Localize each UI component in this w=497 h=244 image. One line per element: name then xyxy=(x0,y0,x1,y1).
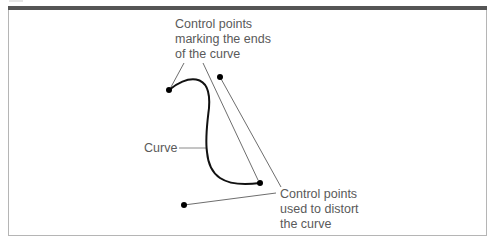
label-line: used to distort xyxy=(280,202,359,217)
end-control-point-finish xyxy=(257,180,263,186)
leader-line-distort-point-2 xyxy=(184,193,276,205)
distort-control-point-1 xyxy=(217,74,223,80)
label-line: Control points xyxy=(280,187,359,202)
label-line: the curve xyxy=(280,217,359,232)
leader-line-end-point xyxy=(203,63,258,180)
distort-control-point-2 xyxy=(181,202,187,208)
end-control-point-start xyxy=(166,87,172,93)
label-line: marking the ends xyxy=(175,32,271,47)
bezier-curve xyxy=(169,79,260,184)
label-line: of the curve xyxy=(175,47,271,62)
label-curve: Curve xyxy=(144,141,177,156)
leader-line-distort-point-1 xyxy=(220,77,281,187)
label-distort-control-points: Control points used to distort the curve xyxy=(280,187,359,232)
label-end-control-points: Control points marking the ends of the c… xyxy=(175,17,271,62)
label-line: Control points xyxy=(175,17,271,32)
